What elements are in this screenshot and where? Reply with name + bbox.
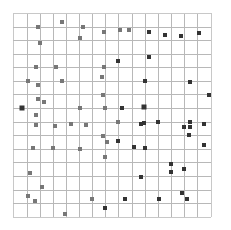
square-marker [53,124,57,128]
square-marker [120,106,124,110]
square-marker [69,122,73,126]
square-marker [31,146,35,150]
square-marker [101,93,105,97]
square-marker [182,167,186,171]
square-marker [143,146,147,150]
square-marker [116,59,120,63]
square-marker [163,33,167,37]
square-marker [36,83,40,87]
square-marker [127,28,131,32]
square-marker [142,105,147,110]
square-marker [100,75,104,79]
square-marker [63,212,67,216]
square-marker [103,155,107,159]
square-marker [34,65,38,69]
square-marker [132,145,136,149]
square-marker [38,41,42,45]
square-marker [26,79,30,83]
square-marker [84,123,88,127]
square-marker [197,31,201,35]
square-marker [103,106,107,110]
square-marker [102,30,106,34]
square-marker [34,113,38,117]
square-marker [180,191,184,195]
square-marker [116,139,120,143]
grid-diagram [0,0,231,230]
square-marker [51,146,55,150]
square-marker [188,125,192,129]
square-marker [60,79,64,83]
square-marker [156,120,160,124]
square-marker [169,170,173,174]
square-marker [188,120,192,124]
square-marker [78,106,82,110]
square-marker [187,133,191,137]
square-marker [26,194,30,198]
square-marker [102,65,106,69]
square-marker [60,20,64,24]
square-marker [157,197,161,201]
square-marker [54,65,58,69]
square-marker [101,134,105,138]
square-marker [78,36,82,40]
square-marker [202,122,206,126]
square-marker [147,30,151,34]
square-marker [78,147,82,151]
square-marker [105,140,109,144]
square-marker [169,162,173,166]
square-marker [34,123,38,127]
square-marker [185,197,189,201]
square-marker [143,79,147,83]
square-marker [90,197,94,201]
square-marker [179,34,183,38]
square-marker [142,121,146,125]
square-marker [123,197,127,201]
square-marker [103,206,107,210]
square-marker [188,80,192,84]
square-marker [139,175,143,179]
square-marker [182,125,186,129]
square-marker [202,143,206,147]
square-marker [40,185,44,189]
square-marker [28,171,32,175]
square-marker [42,100,46,104]
square-marker [81,25,85,29]
square-marker [33,199,37,203]
grid-canvas [0,0,231,230]
square-marker [116,120,120,124]
square-marker [36,25,40,29]
square-marker [36,97,40,101]
markers-layer [20,20,212,216]
square-marker [20,106,25,111]
square-marker [147,55,151,59]
square-marker [118,28,122,32]
square-marker [207,93,211,97]
